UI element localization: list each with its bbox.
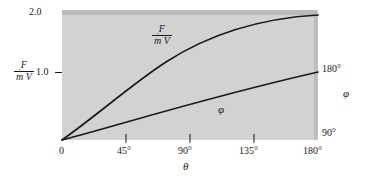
mass-flow-dot-icon: m bbox=[154, 36, 161, 47]
curve-label-denominator: m V bbox=[152, 36, 172, 47]
y-axis-title-denominator: m V bbox=[14, 72, 34, 83]
right-axis-tick-label-90: 90° bbox=[322, 128, 336, 138]
y-tick-label-2: 2.0 bbox=[29, 7, 42, 17]
x-tick-label-0: 0 bbox=[59, 146, 64, 156]
mass-flow-dot-icon: m bbox=[16, 72, 23, 83]
x-axis-title: θ bbox=[183, 161, 188, 172]
right-axis-tick-label-180: 180° bbox=[322, 64, 341, 74]
curve-label-thrust-ratio: F m V bbox=[152, 24, 172, 46]
x-tick-label-180: 180° bbox=[303, 146, 322, 156]
right-axis-title: φ bbox=[343, 88, 349, 99]
chart-figure: F m V 2.0 1.0 F m V φ 180° 90° φ 0 45° 9… bbox=[0, 0, 374, 180]
x-tick-label-45: 45° bbox=[117, 146, 131, 156]
y-tick-label-1: 1.0 bbox=[36, 67, 49, 77]
x-tick-label-90: 90° bbox=[178, 146, 192, 156]
y-tick-mark-1 bbox=[55, 72, 62, 73]
x-tick-label-135: 135° bbox=[239, 146, 258, 156]
x-axis-ticks bbox=[126, 134, 254, 143]
curve-phi bbox=[62, 72, 318, 140]
y-axis-title: F m V bbox=[14, 60, 34, 82]
curve-label-phi: φ bbox=[218, 104, 224, 115]
curve-thrust-ratio bbox=[62, 15, 318, 140]
